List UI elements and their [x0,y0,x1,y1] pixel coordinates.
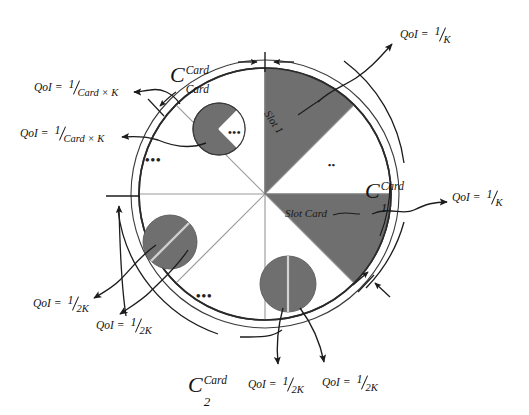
qoi-top-right-eq: = [421,28,429,40]
qoi-top-right: QoI = 1K [400,27,452,42]
qoi-bottom-2-prefix: QoI [322,376,340,388]
term-c-1-card-sub: 1 [381,201,388,214]
sub-wheel-bottom [260,256,316,312]
qoi-bottom-2-num: 1 [357,372,363,386]
qoi-bottom-2-den: 2K [366,382,378,393]
qoi-upper-left-2-den: Card × K [64,133,105,144]
qoi-lower-left-1-den: 2K [77,303,89,314]
qoi-upper-left-2-num: 1 [55,123,61,137]
arrowhead-arc-lower-right-2 [375,283,390,297]
qoi-upper-left-1-eq: = [55,81,63,93]
qoi-right-eq: = [473,191,481,203]
qoi-right-prefix: QoI [452,191,470,203]
figure-canvas: CCardCard CCard1 CCard2 Slot 1 Slot Card… [0,0,529,415]
term-c-2-card-base: C [188,372,203,397]
sector-label-slot-card: Slot Card [285,207,327,219]
ellipsis-right-sector: •• [328,160,335,170]
term-c-2-card-sup: Card [204,375,227,387]
term-c-card-card-sup: Card [186,65,209,77]
qoi-lower-left-1-num: 1 [68,293,74,307]
qoi-upper-left-2: QoI = 1Card × K [20,126,105,141]
qoi-upper-left-2-eq: = [41,127,49,139]
qoi-upper-left-2-prefix: QoI [20,127,38,139]
qoi-upper-left-1: QoI = 1Card × K [34,80,119,95]
qoi-lower-left-2-den: 2K [140,325,152,336]
qoi-lower-left-2-eq: = [117,319,125,331]
qoi-upper-left-1-prefix: QoI [34,81,52,93]
qoi-lower-left-1-eq: = [54,297,62,309]
qoi-top-right-num: 1 [435,24,441,38]
term-c-1-card: CCard1 [365,180,529,202]
qoi-lower-left-2: QoI = 12K [96,318,153,333]
wheel-diagram [0,0,529,415]
connector-c2-card [240,330,282,337]
qoi-bottom-1-den: 2K [292,384,304,395]
qoi-top-right-prefix: QoI [400,28,418,40]
qoi-right-num: 1 [487,187,493,201]
term-c-2-card-sub: 2 [204,395,211,408]
term-c-1-card-base: C [365,178,380,203]
qoi-top-right-den: K [444,34,451,45]
qoi-right-den: K [496,197,503,208]
term-c-1-card-sup: Card [381,181,404,193]
qoi-lower-left-1: QoI = 12K [33,296,90,311]
qoi-lower-left-2-num: 1 [131,315,137,329]
term-c-card-card-sub: Card [186,84,209,96]
qoi-lower-left-1-prefix: QoI [33,297,51,309]
arrow-qoi-lower-left-1 [94,245,156,298]
sub-wheel-left [143,215,197,269]
tick-upper-left [148,99,164,116]
qoi-upper-left-1-num: 1 [69,77,75,91]
ellipsis-bottom-sector: ••• [196,288,213,304]
qoi-upper-left-1-den: Card × K [78,87,119,98]
ellipsis-sub-wheel-top: ••• [228,126,241,138]
qoi-bottom-2-eq: = [343,376,351,388]
arrow-qoi-upper-left-1 [134,90,180,104]
term-c-card-card-base: C [170,62,185,87]
qoi-bottom-1-prefix: QoI [248,378,266,390]
qoi-bottom-1: QoI = 12K [248,377,305,392]
qoi-lower-left-2-prefix: QoI [96,319,114,331]
qoi-bottom-1-num: 1 [283,374,289,388]
arrow-qoi-upper-left-1b [160,92,176,106]
qoi-bottom-1-eq: = [269,378,277,390]
term-c-card-card: CCardCard [170,64,529,86]
qoi-bottom-2: QoI = 12K [322,375,379,390]
ellipsis-left-sector: ••• [145,152,162,168]
qoi-right: QoI = 1K [452,190,504,205]
